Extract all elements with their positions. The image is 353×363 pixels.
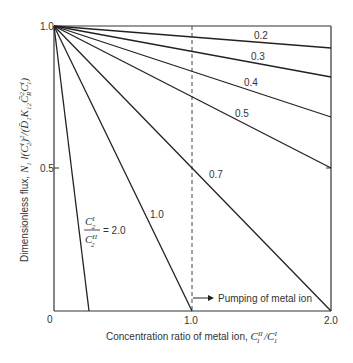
curve-label-0.4: 0.4	[244, 77, 258, 88]
curve-label-0.5: 0.5	[235, 108, 249, 119]
origin-label: 0	[47, 314, 53, 325]
pumping-label: Pumping of metal ion	[218, 293, 312, 304]
curve-label-0.7: 0.7	[209, 169, 223, 180]
line-ratio-2.0	[54, 26, 89, 311]
ratio-label-2.0: CI2 CII2 = 2.0	[84, 215, 126, 249]
x-axis-title: Concentration ratio of metal ion, CII1/C…	[106, 330, 277, 345]
ratio-numerator: CI2	[85, 215, 96, 231]
x-tick-label-1.0: 1.0	[184, 315, 198, 326]
line-ratio-1.0	[54, 26, 192, 311]
ratio-value: = 2.0	[103, 225, 126, 236]
pumping-annotation: Pumping of metal ion	[193, 293, 312, 304]
curve-label-0.3: 0.3	[251, 51, 265, 62]
chart-figure: 0.2 0.3 0.4 0.5 0.7 1.0 CI2 CII2 = 2.0 P…	[0, 0, 353, 363]
x-tick-label-2.0: 2.0	[324, 315, 338, 326]
y-tick-label-0.5: 0.5	[40, 163, 54, 174]
ratio-denominator: CII2	[85, 233, 98, 249]
arrow-right-icon	[208, 295, 214, 301]
y-tick-label-1.0: 1.0	[40, 21, 54, 32]
curve-label-1.0: 1.0	[150, 209, 164, 220]
y-axis-title: Dimensionless flux, N1 l(CI2)2/(D̄1K12C̄…	[18, 78, 33, 262]
curve-label-0.2: 0.2	[254, 30, 268, 41]
